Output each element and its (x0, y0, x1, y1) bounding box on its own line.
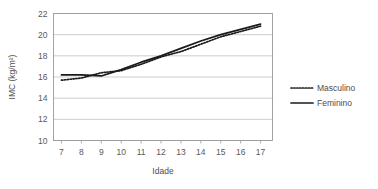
y-tick-label: 16 (38, 72, 48, 82)
y-tick-label: 10 (38, 136, 48, 146)
x-tick-label: 11 (137, 147, 146, 157)
x-axis-title: Idade (152, 166, 174, 176)
series-line-feminino (61, 24, 260, 76)
y-tick-label: 12 (38, 114, 48, 124)
x-tick-label: 15 (216, 147, 226, 157)
x-tick-label: 7 (59, 147, 64, 157)
line-chart: 10121416182022 7891011121314151617 Idade… (0, 0, 378, 189)
x-tick-label: 8 (79, 147, 84, 157)
x-tick-label: 12 (156, 147, 166, 157)
y-tick-label: 22 (38, 9, 48, 19)
x-tick-label: 14 (196, 147, 206, 157)
x-tick-label: 17 (256, 147, 266, 157)
legend-label-feminino: Feminino (317, 98, 352, 108)
y-axis-tick-labels: 10121416182022 (38, 9, 48, 146)
x-tick-label: 16 (236, 147, 246, 157)
x-tick-label: 9 (99, 147, 104, 157)
y-tick-label: 20 (38, 30, 48, 40)
x-tick-label: 13 (176, 147, 186, 157)
legend-label-masculino: Masculino (317, 83, 356, 93)
y-tick-label: 14 (38, 93, 48, 103)
legend: Masculino Feminino (291, 83, 356, 108)
x-tick-label: 10 (116, 147, 126, 157)
y-axis-title: IMC (kg/m²) (7, 54, 17, 99)
x-axis-tick-labels: 7891011121314151617 (59, 147, 265, 157)
chart-container: 10121416182022 7891011121314151617 Idade… (0, 0, 378, 189)
y-tick-label: 18 (38, 51, 48, 61)
